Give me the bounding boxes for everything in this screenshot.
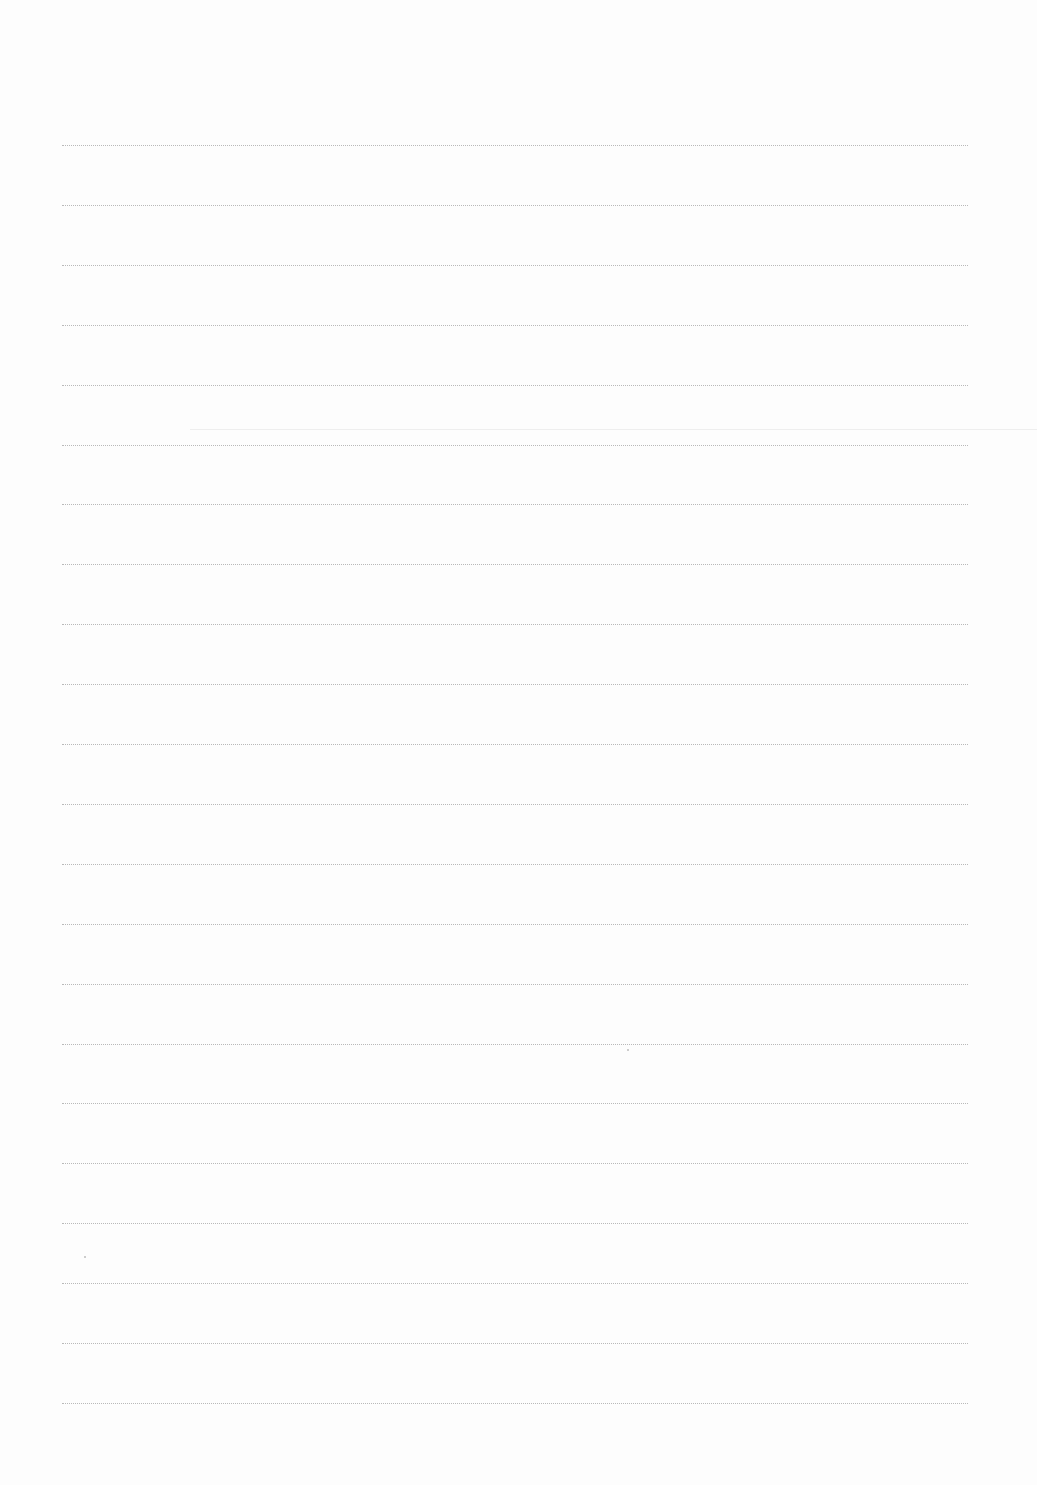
ruled-line <box>62 1163 968 1164</box>
ruled-line <box>62 744 968 745</box>
ruled-line <box>62 1223 968 1224</box>
ruled-line <box>62 1343 968 1344</box>
ruled-line <box>62 445 968 446</box>
ruled-line <box>62 984 968 985</box>
ruled-line <box>62 265 968 266</box>
paper-speck <box>627 1049 629 1051</box>
ruled-line <box>62 564 968 565</box>
ruled-line <box>62 145 968 146</box>
ruled-line <box>62 1403 968 1404</box>
ruled-line <box>62 624 968 625</box>
ruled-line <box>62 205 968 206</box>
paper-speck <box>84 1256 86 1258</box>
ruled-line <box>62 504 968 505</box>
ruled-line <box>62 804 968 805</box>
ruled-paper-page <box>0 0 1037 1485</box>
paper-crease <box>190 429 1037 430</box>
ruled-line <box>62 385 968 386</box>
ruled-line <box>62 1283 968 1284</box>
ruled-line <box>62 924 968 925</box>
ruled-line <box>62 864 968 865</box>
ruled-line <box>62 325 968 326</box>
ruled-line <box>62 1044 968 1045</box>
ruled-line <box>62 1103 968 1104</box>
ruled-line <box>62 684 968 685</box>
